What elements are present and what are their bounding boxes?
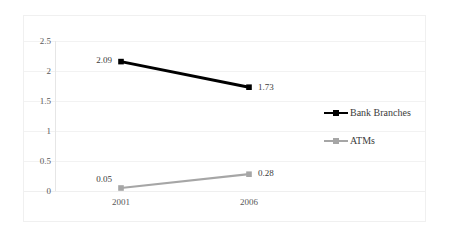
legend-marker-atms xyxy=(324,135,348,147)
x-tick-label-2001: 2001 xyxy=(112,198,130,207)
y-axis-line xyxy=(55,41,56,191)
gridline-2-0 xyxy=(24,71,425,72)
y-tick-label: 2 xyxy=(25,67,51,76)
y-tick-label: 1.5 xyxy=(25,97,51,106)
gridline-2-5 xyxy=(24,41,425,42)
chart-legend: Bank Branches ATMs xyxy=(324,102,424,158)
data-label-atm-2001: 0.05 xyxy=(96,175,112,184)
series-atms xyxy=(118,171,252,190)
gridline-0-5 xyxy=(24,161,425,162)
chart-container: 2.5 2 1.5 1 0.5 0 2001 2006 2.09 1.73 0.… xyxy=(23,15,426,222)
data-label-bank-2001: 2.09 xyxy=(96,56,112,65)
y-tick-label: 0.5 xyxy=(25,157,51,166)
gridline-0-0 xyxy=(24,191,425,192)
data-label-bank-2006: 1.73 xyxy=(258,83,274,92)
legend-item-atms[interactable]: ATMs xyxy=(324,130,424,152)
data-label-atm-2006: 0.28 xyxy=(258,169,274,178)
y-tick-label: 1 xyxy=(25,127,51,136)
legend-item-bank-branches[interactable]: Bank Branches xyxy=(324,102,424,124)
y-tick-label: 0 xyxy=(25,187,51,196)
legend-marker-bank-branches xyxy=(324,107,348,119)
x-tick-label-2006: 2006 xyxy=(240,198,258,207)
y-tick-label: 2.5 xyxy=(25,37,51,46)
y-axis-tick-labels: 2.5 2 1.5 1 0.5 0 xyxy=(24,41,51,191)
legend-label-bank-branches: Bank Branches xyxy=(350,108,411,118)
series-bank-branches xyxy=(118,59,252,90)
legend-label-atms: ATMs xyxy=(350,136,375,146)
